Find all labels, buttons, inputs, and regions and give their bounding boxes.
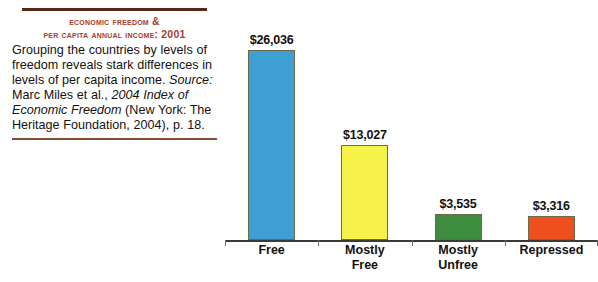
axis-label-line1: Free	[258, 243, 284, 257]
bar-rect[interactable]	[435, 214, 482, 240]
bar-chart: $26,036$13,027$3,535$3,316 FreeMostlyFre…	[225, 0, 598, 282]
axis-label-mostly-free[interactable]: MostlyFree	[318, 243, 411, 273]
axis-label-free[interactable]: Free	[225, 243, 318, 258]
caption-body-text-2: Marc Miles et al.,	[12, 88, 111, 102]
caption-title: Economic Freedom & Per Capita Annual Inc…	[12, 11, 217, 41]
bar-group-3[interactable]: $3,316	[528, 14, 575, 240]
bar-value-label: $13,027	[343, 128, 387, 142]
bar-value-label: $26,036	[250, 33, 294, 47]
chart-plot-area: $26,036$13,027$3,535$3,316	[225, 14, 598, 240]
figure-root: Economic Freedom & Per Capita Annual Inc…	[0, 0, 598, 282]
bar-group-2[interactable]: $3,535	[435, 14, 482, 240]
bar-value-label: $3,316	[533, 199, 570, 213]
axis-label-line1: Mostly	[438, 243, 478, 257]
bar-group-1[interactable]: $13,027	[341, 14, 388, 240]
axis-label-repressed[interactable]: Repressed	[505, 243, 598, 258]
caption-block: Economic Freedom & Per Capita Annual Inc…	[12, 8, 217, 140]
bar-rect[interactable]	[341, 145, 388, 240]
caption-body: Grouping the countries by levels of free…	[12, 41, 217, 134]
chart-axis-labels: FreeMostlyFreeMostlyUnfreeRepressed	[225, 243, 598, 282]
axis-label-line1: Mostly	[345, 243, 385, 257]
caption-title-line2: Per Capita Annual Income: 2001	[12, 28, 217, 41]
bar-rect[interactable]	[528, 216, 575, 240]
axis-label-line1: Repressed	[519, 243, 583, 257]
axis-label-mostly-unfree[interactable]: MostlyUnfree	[412, 243, 505, 273]
caption-title-line1: Economic Freedom &	[12, 15, 217, 28]
caption-rule-bottom	[12, 138, 217, 140]
caption-source-label: Source:	[169, 73, 212, 87]
axis-label-line2: Free	[318, 258, 411, 273]
bar-rect[interactable]	[248, 50, 295, 240]
axis-label-line2: Unfree	[412, 258, 505, 273]
bar-group-0[interactable]: $26,036	[248, 14, 295, 240]
bar-value-label: $3,535	[440, 197, 477, 211]
